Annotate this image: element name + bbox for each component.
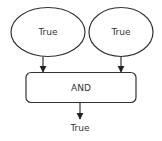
- input-node-a: True: [11, 8, 85, 57]
- output-label: True: [69, 123, 90, 133]
- input-label-a: True: [37, 27, 58, 37]
- input-node-b: True: [89, 8, 153, 57]
- and-gate-node: AND: [26, 73, 136, 103]
- and-gate-label: AND: [71, 83, 91, 93]
- input-label-b: True: [110, 27, 131, 37]
- logic-diagram: True True AND True: [0, 0, 162, 141]
